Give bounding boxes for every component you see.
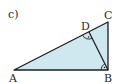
- vertex-label-c: C: [104, 9, 112, 22]
- part-label: c): [8, 8, 18, 21]
- right-angle-dot-d: [88, 36, 90, 38]
- vertex-label-b: B: [104, 72, 112, 84]
- vertex-label-a: A: [8, 72, 18, 84]
- triangle-diagram: c) A B C D: [0, 0, 121, 84]
- vertex-label-d: D: [81, 20, 90, 33]
- triangle-abc: [14, 22, 108, 70]
- right-angle-dot-b: [104, 67, 106, 69]
